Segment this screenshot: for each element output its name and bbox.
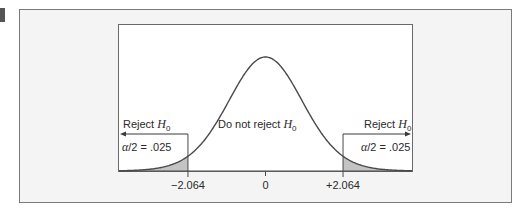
tick-label: 0 xyxy=(262,179,268,191)
alpha-left-label: α/2 = .025 xyxy=(122,140,171,154)
figure-canvas: Reject H0 α/2 = .025 Do not reject H0 Re… xyxy=(0,0,528,217)
figure-marker xyxy=(0,8,5,22)
alpha-right-label: α/2 = .025 xyxy=(361,140,410,154)
tick-label: +2.064 xyxy=(326,179,360,191)
tick-label: −2.064 xyxy=(171,179,205,191)
